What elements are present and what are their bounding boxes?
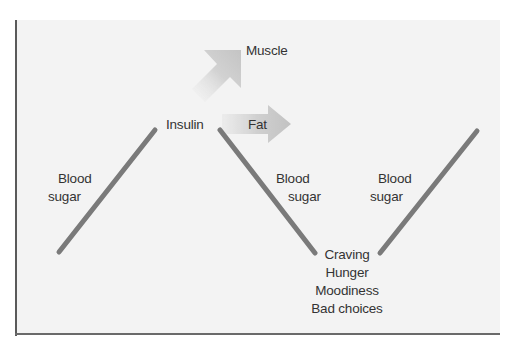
- hunger-text: Hunger: [296, 264, 398, 282]
- blood-label-text: Blood: [58, 170, 88, 188]
- craving-text: Craving: [296, 246, 398, 264]
- blood-label-text: Blood: [276, 170, 324, 188]
- fat-label: Fat: [248, 116, 267, 134]
- insulin-label: Insulin: [166, 116, 204, 134]
- muscle-arrow-icon: [192, 50, 241, 102]
- moodiness-text: Moodiness: [296, 282, 398, 300]
- bad-choices-text: Bad choices: [296, 300, 398, 318]
- blood-sugar-label-fall: Blood sugar: [276, 170, 324, 206]
- low-blood-sugar-effects: Craving Hunger Moodiness Bad choices: [296, 246, 398, 318]
- sugar-label-text: sugar: [288, 188, 324, 206]
- blood-sugar-label-rise-2: Blood sugar: [370, 170, 418, 206]
- sugar-label-text: sugar: [48, 188, 88, 206]
- blood-sugar-label-rise-1: Blood sugar: [48, 170, 88, 206]
- muscle-label: Muscle: [246, 42, 288, 60]
- diagram-canvas: Muscle Insulin Fat Blood sugar Blood sug…: [0, 0, 526, 352]
- blood-label-text: Blood: [378, 170, 418, 188]
- sugar-label-text: sugar: [370, 188, 418, 206]
